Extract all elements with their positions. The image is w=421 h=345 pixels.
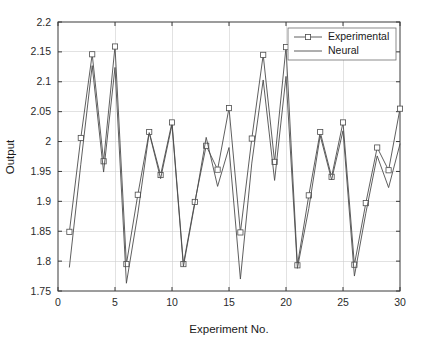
chart-legend: ExperimentalNeural xyxy=(288,28,396,60)
x-axis-title: Experiment No. xyxy=(189,323,268,335)
x-tick-label: 30 xyxy=(394,296,406,308)
data-point-marker xyxy=(215,167,220,172)
data-point-marker xyxy=(375,145,380,150)
x-tick-label: 5 xyxy=(112,296,118,308)
data-point-marker xyxy=(340,120,345,125)
y-tick-label: 2 xyxy=(45,135,51,147)
y-tick-label: 2.2 xyxy=(36,16,51,28)
x-tick-label: 25 xyxy=(337,296,349,308)
gridlines xyxy=(58,22,400,291)
data-point-marker xyxy=(124,262,129,267)
data-point-marker xyxy=(112,44,117,49)
y-tick-label: 2.1 xyxy=(36,75,51,87)
series-line-experimental xyxy=(69,47,400,266)
data-point-marker xyxy=(318,129,323,134)
chart-figure: 1.751.81.851.91.9522.052.12.152.20510152… xyxy=(0,0,421,345)
data-point-marker xyxy=(169,120,174,125)
x-tick-label: 15 xyxy=(223,296,235,308)
legend-marker-sample xyxy=(305,34,310,39)
x-tick-label: 10 xyxy=(166,296,178,308)
y-tick-label: 1.75 xyxy=(31,285,52,297)
data-point-marker xyxy=(78,135,83,140)
data-point-marker xyxy=(261,52,266,57)
y-tick-label: 1.95 xyxy=(31,165,52,177)
y-tick-label: 1.9 xyxy=(36,195,51,207)
data-point-marker xyxy=(238,230,243,235)
y-tick-label: 1.85 xyxy=(31,225,52,237)
chart-canvas: 1.751.81.851.91.9522.052.12.152.20510152… xyxy=(0,0,421,345)
y-tick-label: 1.8 xyxy=(36,255,51,267)
data-point-marker xyxy=(90,52,95,57)
legend-label-experimental: Experimental xyxy=(328,30,389,42)
data-point-marker xyxy=(226,105,231,110)
data-series xyxy=(67,44,403,283)
data-point-marker xyxy=(135,192,140,197)
y-tick-label: 2.15 xyxy=(31,45,52,57)
x-tick-label: 0 xyxy=(55,296,61,308)
legend-label-neural: Neural xyxy=(328,44,359,56)
data-point-marker xyxy=(249,136,254,141)
y-tick-label: 2.05 xyxy=(31,105,52,117)
y-axis-title: Output xyxy=(4,139,16,174)
data-point-marker xyxy=(67,229,72,234)
x-tick-label: 20 xyxy=(280,296,292,308)
data-point-marker xyxy=(386,168,391,173)
data-point-marker xyxy=(397,106,402,111)
